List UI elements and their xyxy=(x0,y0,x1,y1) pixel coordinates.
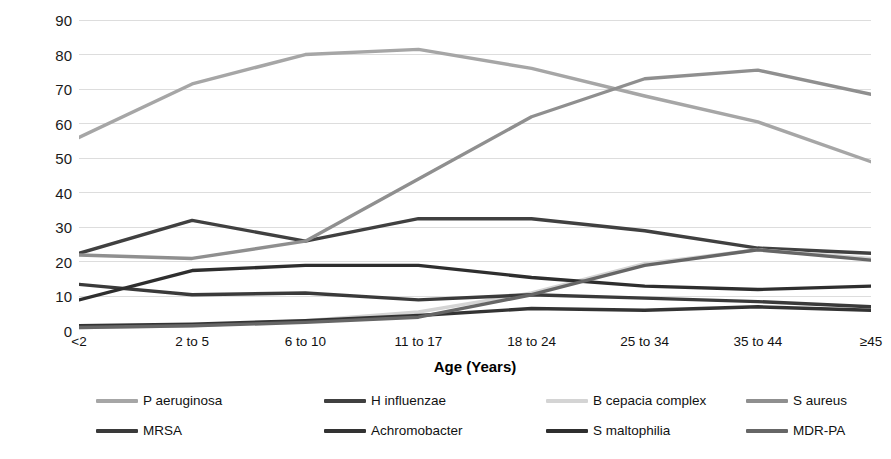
legend-row-1: MRSAAchromobacterS maltophiliaMDR-PA xyxy=(96,418,886,444)
legend-label: P aeruginosa xyxy=(143,394,222,408)
x-axis-tick-7: ≥45 xyxy=(860,334,882,349)
legend-label: MRSA xyxy=(143,424,182,438)
legend-item-p-aeruginosa[interactable]: P aeruginosa xyxy=(96,394,222,408)
y-axis-tick-60: 60 xyxy=(38,116,72,131)
x-axis-tick-0: <2 xyxy=(71,334,86,349)
legend-item-mrsa[interactable]: MRSA xyxy=(96,424,182,438)
x-axis-tick-2: 6 to 10 xyxy=(285,334,326,349)
x-axis-tick-4: 18 to 24 xyxy=(507,334,556,349)
legend-item-b-cepacia-complex[interactable]: B cepacia complex xyxy=(546,394,706,408)
chart-legend: P aeruginosaH influenzaeB cepacia comple… xyxy=(96,388,886,450)
legend-swatch-icon xyxy=(96,429,138,433)
legend-label: Achromobacter xyxy=(371,424,463,438)
x-axis-title: Age (Years) xyxy=(79,358,871,375)
legend-swatch-icon xyxy=(546,429,588,433)
y-axis-tick-10: 10 xyxy=(38,289,72,304)
legend-item-s-maltophilia[interactable]: S maltophilia xyxy=(546,424,670,438)
legend-item-mdr-pa[interactable]: MDR-PA xyxy=(746,424,845,438)
x-axis-tick-6: 35 to 44 xyxy=(733,334,782,349)
line-chart: Percent of Patients 0102030405060708090 … xyxy=(0,0,891,459)
plot-area xyxy=(79,20,871,331)
y-axis-tick-20: 20 xyxy=(38,254,72,269)
legend-row-0: P aeruginosaH influenzaeB cepacia comple… xyxy=(96,388,886,414)
legend-item-achromobacter[interactable]: Achromobacter xyxy=(324,424,463,438)
legend-swatch-icon xyxy=(546,399,588,403)
legend-label: S maltophilia xyxy=(593,424,670,438)
legend-swatch-icon xyxy=(96,399,138,403)
y-axis-tick-labels: 0102030405060708090 xyxy=(30,20,72,331)
x-axis-tick-1: 2 to 5 xyxy=(175,334,209,349)
legend-swatch-icon xyxy=(746,399,788,403)
legend-label: H influenzae xyxy=(371,394,446,408)
legend-label: S aureus xyxy=(793,394,847,408)
x-axis-tick-5: 25 to 34 xyxy=(620,334,669,349)
y-axis-tick-0: 0 xyxy=(38,324,72,339)
legend-item-h-influenzae[interactable]: H influenzae xyxy=(324,394,446,408)
y-axis-tick-50: 50 xyxy=(38,151,72,166)
x-axis-tick-3: 11 to 17 xyxy=(395,334,443,349)
y-axis-tick-30: 30 xyxy=(38,220,72,235)
x-axis-tick-labels: <22 to 56 to 1011 to 1718 to 2425 to 343… xyxy=(79,334,871,356)
plot-lines xyxy=(79,20,871,331)
legend-swatch-icon xyxy=(746,429,788,433)
legend-label: B cepacia complex xyxy=(593,394,706,408)
y-axis-tick-90: 90 xyxy=(38,13,72,28)
legend-item-s-aureus[interactable]: S aureus xyxy=(746,394,847,408)
y-axis-tick-40: 40 xyxy=(38,185,72,200)
y-axis-tick-80: 80 xyxy=(38,47,72,62)
legend-label: MDR-PA xyxy=(793,424,845,438)
legend-swatch-icon xyxy=(324,399,366,403)
legend-swatch-icon xyxy=(324,429,366,433)
y-axis-tick-70: 70 xyxy=(38,82,72,97)
